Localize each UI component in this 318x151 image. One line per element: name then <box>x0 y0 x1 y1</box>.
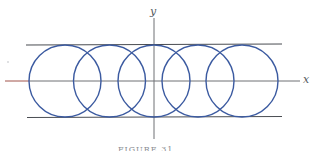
y-axis-label: y <box>150 6 156 17</box>
figure-caption: FIGURE 31 <box>118 145 173 151</box>
circles-diagram <box>0 0 318 151</box>
x-axis-label: x <box>303 74 309 85</box>
stray-dot <box>7 61 9 63</box>
